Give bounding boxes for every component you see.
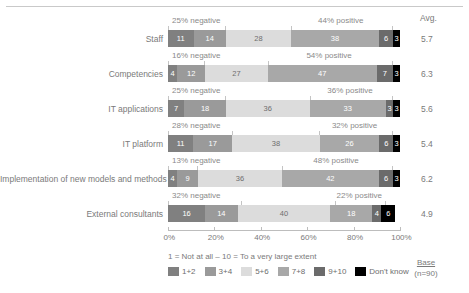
legend-swatch	[205, 267, 216, 276]
average-value: 6.2	[421, 174, 451, 184]
x-tick	[354, 227, 355, 231]
bar-segment: 36	[226, 100, 310, 117]
bar-segment: 12	[177, 65, 205, 82]
chart-legend: 1+23+45+67+89+10Don't know	[168, 267, 415, 276]
average-value: 6.3	[421, 69, 451, 79]
bar-segment: 38	[232, 135, 319, 152]
bar-segment: 17	[193, 135, 232, 152]
top-divider	[6, 6, 463, 7]
category-label: Implementation of new models and methods	[0, 174, 163, 184]
legend-label: 3+4	[219, 267, 233, 276]
legend-item: 9+10	[314, 267, 346, 276]
bar-segment: 33	[310, 100, 387, 117]
base-count: (n=90)	[404, 268, 448, 279]
chart-page: Avg. Staff25% negative44% positive111428…	[0, 0, 469, 293]
x-tick-label: 40%	[254, 233, 270, 242]
x-tick	[307, 227, 308, 231]
legend-item: 3+4	[205, 267, 233, 276]
x-axis-line	[168, 230, 401, 231]
legend-swatch	[168, 267, 179, 276]
positive-label: 44% positive	[318, 15, 363, 26]
bar-segment: 6	[381, 205, 395, 222]
x-tick-label: 0%	[164, 233, 176, 242]
positive-label: 22% positive	[337, 190, 382, 201]
positive-label: 32% positive	[332, 120, 377, 131]
average-value: 5.4	[421, 139, 451, 149]
x-tick	[261, 227, 262, 231]
legend-label: 7+8	[292, 267, 306, 276]
stacked-bar: 1117382663	[168, 135, 400, 152]
legend-item: 7+8	[278, 267, 306, 276]
negative-label: 32% negative	[172, 190, 220, 201]
bar-segment: 7	[168, 100, 184, 117]
bar-segment: 3	[393, 65, 400, 82]
base-title: Base	[404, 258, 448, 268]
x-tick-label: 100%	[391, 233, 411, 242]
legend-item: 5+6	[241, 267, 269, 276]
category-label: IT platform	[0, 139, 163, 149]
positive-label: 36% positive	[327, 85, 372, 96]
x-tick	[400, 227, 401, 231]
x-tick-label: 80%	[347, 233, 363, 242]
negative-label: 28% negative	[172, 120, 220, 131]
bar-segment: 3	[386, 100, 393, 117]
negative-label: 16% negative	[172, 50, 220, 61]
bar-segment: 6	[379, 135, 393, 152]
bar-segment: 4	[168, 170, 177, 187]
bar-segment: 3	[393, 100, 400, 117]
legend-label: 1+2	[182, 267, 196, 276]
legend-swatch	[355, 267, 366, 276]
average-value: 4.9	[421, 209, 451, 219]
stacked-bar: 718363333	[168, 100, 400, 117]
legend-label: Don't know	[369, 267, 408, 276]
legend-label: 9+10	[328, 267, 346, 276]
x-tick	[214, 227, 215, 231]
stacked-bar: 49364263	[168, 170, 400, 187]
bar-segment: 6	[379, 170, 393, 187]
bar-segment: 3	[393, 135, 400, 152]
bar-segment: 38	[291, 30, 379, 47]
bar-segment: 9	[177, 170, 198, 187]
bar-segment: 47	[268, 65, 377, 82]
bar-segment: 42	[282, 170, 379, 187]
legend-item: Don't know	[355, 267, 408, 276]
positive-label: 54% positive	[306, 50, 351, 61]
bar-segment: 3	[393, 170, 400, 187]
legend-swatch	[241, 267, 252, 276]
category-label: Competencies	[0, 69, 163, 79]
negative-label: 25% negative	[172, 15, 220, 26]
stacked-bar: 1614401846	[168, 205, 400, 222]
scale-note: 1 = Not at all – 10 = To a very large ex…	[168, 252, 316, 261]
bar-segment: 18	[330, 205, 372, 222]
bar-segment: 36	[198, 170, 282, 187]
bar-segment: 6	[379, 30, 393, 47]
bar-segment: 26	[320, 135, 380, 152]
x-tick-label: 60%	[301, 233, 317, 242]
bar-segment: 4	[168, 65, 177, 82]
bar-segment: 27	[205, 65, 268, 82]
bar-segment: 16	[168, 205, 205, 222]
positive-label: 48% positive	[313, 155, 358, 166]
category-label: Staff	[0, 34, 163, 44]
legend-label: 5+6	[255, 267, 269, 276]
bar-segment: 18	[184, 100, 226, 117]
negative-label: 25% negative	[172, 85, 220, 96]
bar-segment: 4	[372, 205, 381, 222]
bar-segment: 14	[194, 30, 226, 47]
stacked-bar: 1114283863	[168, 30, 400, 47]
bar-segment: 7	[377, 65, 393, 82]
bar-segment: 28	[226, 30, 291, 47]
legend-item: 1+2	[168, 267, 196, 276]
bar-segment: 14	[205, 205, 237, 222]
bar-segment: 11	[168, 135, 193, 152]
average-value: 5.6	[421, 104, 451, 114]
negative-label: 13% negative	[172, 155, 220, 166]
bar-segment: 3	[393, 30, 400, 47]
base-block: Base (n=90)	[404, 258, 448, 279]
category-label: External consultants	[0, 209, 163, 219]
x-tick	[168, 227, 169, 231]
category-label: IT applications	[0, 104, 163, 114]
average-value: 5.7	[421, 34, 451, 44]
x-tick-label: 20%	[208, 233, 224, 242]
bar-segment: 11	[168, 30, 194, 47]
